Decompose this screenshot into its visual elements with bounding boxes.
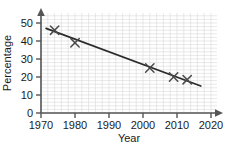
x-tick-label: 2020 <box>199 119 223 131</box>
x-tick-labels: 197019801990200020102020 <box>29 119 223 131</box>
y-axis-title: Percentage <box>1 35 13 91</box>
x-tick-label: 1980 <box>63 119 87 131</box>
y-tick-label: 10 <box>21 89 33 101</box>
x-tick-label: 1970 <box>29 119 53 131</box>
y-axis-arrow-icon <box>37 8 45 16</box>
y-tick-label: 0 <box>27 107 33 119</box>
y-tick-label: 30 <box>21 53 33 65</box>
x-axis-title: Year <box>118 132 141 144</box>
y-tick-label: 20 <box>21 71 33 83</box>
y-tick-label: 40 <box>21 35 33 47</box>
y-tick-labels: 01020304050 <box>21 17 33 119</box>
scatter-chart: 197019801990200020102020 01020304050 Yea… <box>0 0 231 146</box>
x-tick-label: 1990 <box>97 119 121 131</box>
trend-line <box>46 28 201 86</box>
x-axis-arrow-icon <box>215 109 223 117</box>
minor-gridlines <box>41 13 217 113</box>
x-tick-label: 2000 <box>131 119 155 131</box>
x-tick-label: 2010 <box>165 119 189 131</box>
y-tick-label: 50 <box>21 17 33 29</box>
trend-line-segment <box>46 28 201 86</box>
chart-canvas: 197019801990200020102020 01020304050 Yea… <box>0 0 231 146</box>
